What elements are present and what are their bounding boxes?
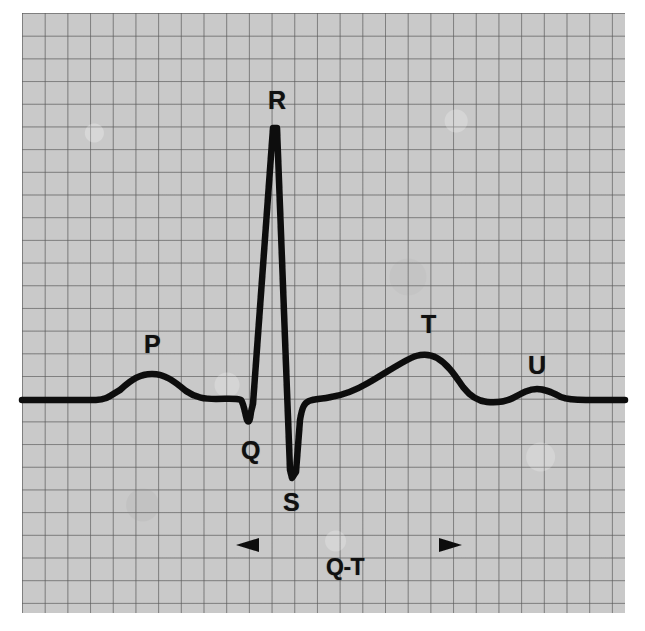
qt-arrowhead-left xyxy=(236,538,259,552)
label-qt-interval: Q-T xyxy=(326,554,364,581)
qt-arrowhead-right xyxy=(439,538,462,552)
label-u-wave: U xyxy=(528,353,546,378)
label-p-wave: P xyxy=(144,332,161,357)
label-s-wave: S xyxy=(283,490,300,515)
label-q-wave: Q xyxy=(241,438,260,463)
ecg-waveform-path xyxy=(22,128,625,478)
label-t-wave: T xyxy=(421,312,436,337)
ecg-figure: P Q R S T U Q-T xyxy=(0,0,645,631)
ecg-trace-layer xyxy=(0,0,645,631)
label-r-wave: R xyxy=(268,88,286,113)
